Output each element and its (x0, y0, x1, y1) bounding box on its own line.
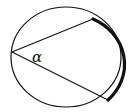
angle-alpha-label: α (32, 48, 42, 66)
circle (11, 7, 121, 107)
inscribed-angle-diagram: α (0, 0, 130, 112)
chord-lower (12, 52, 108, 100)
